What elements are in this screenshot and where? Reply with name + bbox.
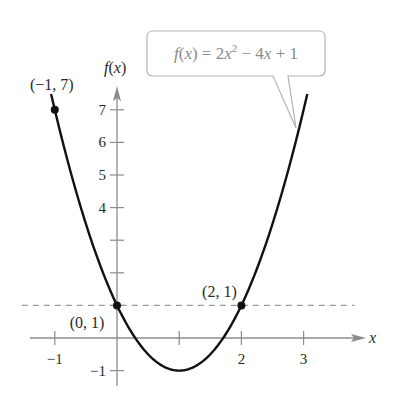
y-tick-label: 7 xyxy=(99,102,107,118)
point-label: (2, 1) xyxy=(202,283,237,301)
y-axis-label: f(x) xyxy=(104,59,126,77)
point-label: (−1, 7) xyxy=(30,76,74,94)
y-tick-label: 6 xyxy=(99,134,107,150)
x-tick-label: 3 xyxy=(300,351,308,367)
data-point xyxy=(51,106,59,114)
y-tick-label: −1 xyxy=(90,363,106,379)
data-point xyxy=(113,301,121,309)
data-point xyxy=(237,301,245,309)
x-tick-label: −1 xyxy=(47,351,63,367)
y-tick-label: 4 xyxy=(99,200,107,216)
function-callout: f(x) = 2x2 − 4x + 1 xyxy=(147,31,325,128)
x-axis-label: x xyxy=(368,329,376,346)
x-tick-label: 2 xyxy=(238,351,246,367)
point-label: (0, 1) xyxy=(70,314,105,332)
function-graph: −123−14567 (−1, 7)(0, 1)(2, 1) f(x) = 2x… xyxy=(0,0,396,404)
y-tick-label: 5 xyxy=(99,167,107,183)
